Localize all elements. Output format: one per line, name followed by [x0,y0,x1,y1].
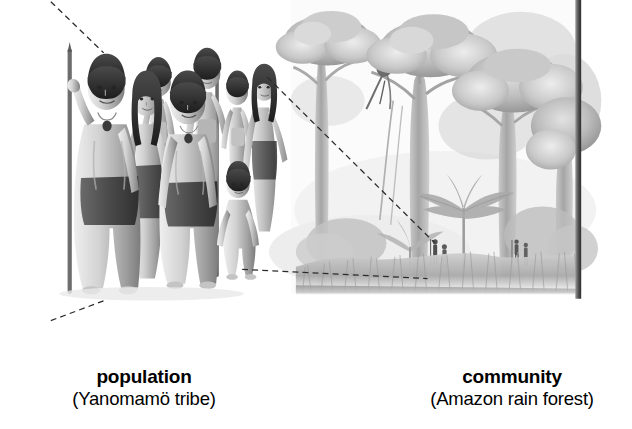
caption-community-title: community [412,367,612,387]
caption-community: community (Amazon rain forest) [412,367,612,408]
dashed-line-bottom-left [51,300,107,321]
caption-population: population (Yanomamö tribe) [44,367,244,408]
tribe-figure-front-man-left [67,54,140,295]
tribe-figure-toddler [217,161,259,280]
forest-ground-grass [291,252,581,302]
caption-community-subtitle: (Amazon rain forest) [412,389,612,408]
dashed-line-top-left [51,2,104,53]
plate-edge-strip [575,0,581,299]
yanomamo-tribe-illustration [59,42,287,300]
textbook-figure: population (Yanomamö tribe) community (A… [0,0,632,429]
caption-population-title: population [44,367,244,387]
illustration-artboard [0,0,632,360]
caption-population-subtitle: (Yanomamö tribe) [44,389,244,408]
amazon-rain-forest-illustration [269,0,601,302]
